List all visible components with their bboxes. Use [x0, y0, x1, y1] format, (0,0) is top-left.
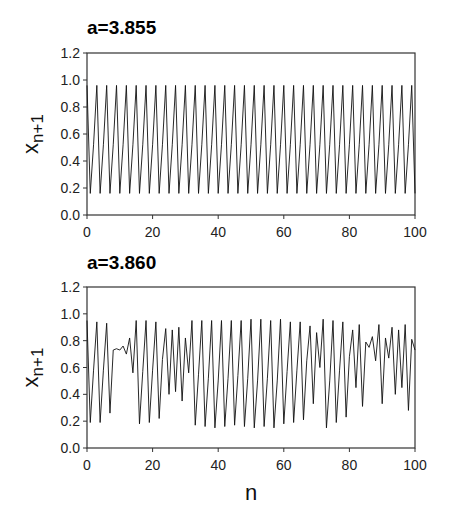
y-tick-label: 0.2	[61, 180, 81, 196]
y-axis-label: xn+1	[18, 114, 47, 154]
chart-panel-a3855: a=3.855 0.00.20.40.60.81.01.202040608010…	[18, 17, 427, 240]
y-axis-label: xn+1	[18, 348, 47, 388]
x-tick-label: 60	[276, 224, 292, 240]
x-tick-label: 20	[145, 457, 161, 473]
x-tick-label: 80	[342, 224, 358, 240]
x-tick-label: 0	[83, 224, 91, 240]
y-tick-label: 0.8	[61, 99, 81, 115]
axes: 0.00.20.40.60.81.01.2020406080100	[61, 279, 427, 473]
x-tick-label: 80	[342, 457, 358, 473]
chart-title: a=3.860	[87, 252, 156, 273]
y-tick-label: 0.0	[61, 207, 81, 223]
chart-panel-a3860: a=3.860 0.00.20.40.60.81.01.202040608010…	[18, 252, 427, 473]
y-tick-label: 0.6	[61, 360, 81, 376]
x-tick-label: 0	[83, 457, 91, 473]
y-tick-label: 1.0	[61, 72, 81, 88]
y-tick-label: 1.0	[61, 306, 81, 322]
logistic-map-figure: a=3.855 0.00.20.40.60.81.01.202040608010…	[0, 0, 449, 520]
x-tick-label: 100	[403, 224, 427, 240]
axes: 0.00.20.40.60.81.01.2020406080100	[61, 45, 427, 240]
y-tick-label: 1.2	[61, 45, 81, 61]
chart-title: a=3.855	[87, 17, 157, 38]
y-tick-label: 1.2	[61, 279, 81, 295]
x-tick-label: 100	[403, 457, 427, 473]
data-line	[87, 85, 415, 193]
x-tick-label: 40	[210, 224, 226, 240]
y-tick-label: 0.0	[61, 440, 81, 456]
y-tick-label: 0.6	[61, 126, 81, 142]
plot-frame	[87, 287, 415, 448]
x-tick-label: 60	[276, 457, 292, 473]
x-tick-label: 20	[145, 224, 161, 240]
x-tick-label: 40	[210, 457, 226, 473]
y-tick-label: 0.4	[61, 153, 81, 169]
x-axis-label: n	[245, 480, 257, 505]
y-tick-label: 0.8	[61, 333, 81, 349]
y-tick-label: 0.2	[61, 413, 81, 429]
y-tick-label: 0.4	[61, 386, 81, 402]
data-line	[87, 319, 415, 428]
